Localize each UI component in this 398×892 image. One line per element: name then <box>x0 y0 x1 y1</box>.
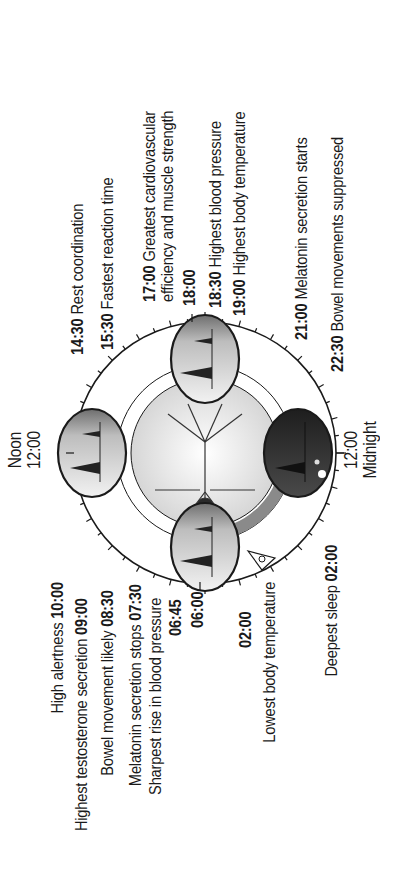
event-sharpest-rise-bp: Sharpest rise in blood pressure <box>146 598 165 795</box>
evening-scene-icon <box>171 315 239 403</box>
event-high-alertness: High alertness 10:00 <box>48 582 67 713</box>
noon-text: Noon <box>6 424 25 476</box>
midnight-time: 12:00 <box>342 414 361 486</box>
event-highest-body-temperature: 19:00 Highest body temperature <box>230 111 249 316</box>
event-rest-coordination: 14:30 Rest coordination <box>68 204 87 355</box>
event-highest-blood-pressure: 18:30 Highest blood pressure <box>206 121 225 308</box>
time-0645: 06:45 <box>166 600 185 637</box>
event-efficiency-muscle-strength: efficiency and muscle strength <box>158 111 177 302</box>
noon-label: Noon 12:00 <box>6 424 44 476</box>
noon-time: 12:00 <box>25 424 44 476</box>
event-melatonin-starts: 21:00 Melatonin secretion starts <box>292 137 311 340</box>
morning-scene-icon <box>171 503 239 591</box>
event-bowel-movement-likely: Bowel movement likely 08:30 <box>98 590 117 776</box>
event-melatonin-stops: Melatonin secretion stops 07:30 <box>126 584 145 786</box>
clock-graphic <box>0 0 398 892</box>
event-highest-testosterone: Highest testosterone secretion 09:00 <box>72 598 91 831</box>
circadian-clock-diagram: Noon 12:00 12:00 Midnight High alertness… <box>0 0 398 892</box>
event-greatest-cardiovascular: 17:00 Greatest cardiovascular <box>140 111 159 302</box>
event-bowel-movements-suppressed: 22:30 Bowel movements suppressed <box>328 137 347 372</box>
midnight-label: 12:00 Midnight <box>342 414 380 486</box>
midnight-text: Midnight <box>361 414 380 486</box>
event-lowest-body-temperature: Lowest body temperature <box>260 582 279 743</box>
event-fastest-reaction: 15:30 Fastest reaction time <box>98 177 117 350</box>
night-scene-icon <box>264 409 332 497</box>
time-0200-body-temp: 02:00 <box>236 612 255 649</box>
time-1800: 18:00 <box>180 269 199 306</box>
event-deepest-sleep: Deepest sleep 02:00 <box>322 545 341 677</box>
time-0600: 06:00 <box>188 592 207 629</box>
